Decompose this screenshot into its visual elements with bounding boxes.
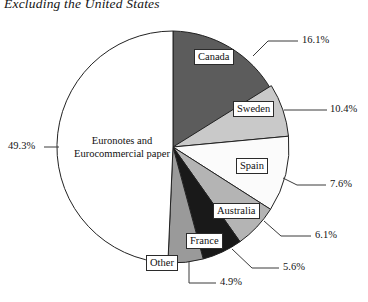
slice-label-euronotes: Euronotes and Eurocommercial paper xyxy=(62,135,182,161)
pct-label-australia: 6.1% xyxy=(315,229,337,240)
pie-chart: Excluding the United States Canada Swede… xyxy=(0,0,368,302)
slice-label-france: France xyxy=(186,233,223,249)
euronotes-line-1: Euronotes and xyxy=(62,135,182,148)
leader-line-spain xyxy=(283,178,326,185)
slice-label-australia: Australia xyxy=(213,203,260,219)
pie-svg xyxy=(0,0,368,302)
euronotes-line-2: Eurocommercial paper xyxy=(62,148,182,161)
slice-label-canada: Canada xyxy=(194,49,234,65)
pct-label-other: 4.9% xyxy=(220,276,242,287)
leader-line-canada xyxy=(253,41,298,56)
leader-line-other xyxy=(189,262,216,283)
pct-label-spain: 7.6% xyxy=(330,178,352,189)
pct-label-france: 5.6% xyxy=(283,261,305,272)
slice-label-sweden: Sweden xyxy=(233,101,274,117)
pct-label-euronotes: 49.3% xyxy=(8,140,35,151)
slice-label-other: Other xyxy=(146,255,178,271)
leader-line-australia xyxy=(264,221,311,236)
slice-label-spain: Spain xyxy=(236,158,268,174)
pct-label-canada: 16.1% xyxy=(302,34,329,45)
leader-line-france xyxy=(232,249,279,268)
pct-label-sweden: 10.4% xyxy=(330,103,357,114)
